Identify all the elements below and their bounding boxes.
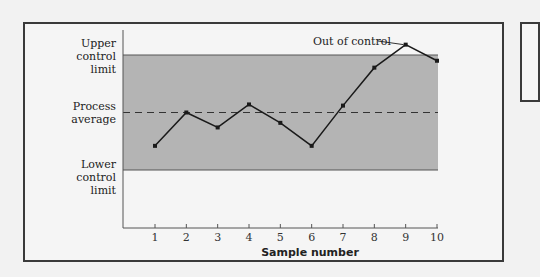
data-point bbox=[435, 59, 439, 63]
data-point bbox=[404, 43, 408, 47]
data-point bbox=[310, 144, 314, 148]
data-point bbox=[341, 104, 345, 108]
data-point bbox=[153, 144, 157, 148]
x-tick-label: 8 bbox=[364, 231, 384, 244]
average-label-line: average bbox=[26, 113, 116, 126]
lcl-label-line: Lower bbox=[26, 158, 116, 171]
data-point bbox=[216, 125, 220, 129]
average-label-line: Process bbox=[26, 100, 116, 113]
ucl-label: Upper control limit bbox=[26, 37, 116, 76]
x-tick-label: 3 bbox=[208, 231, 228, 244]
average-label: Process average bbox=[26, 100, 116, 126]
x-tick-label: 10 bbox=[427, 231, 447, 244]
ucl-label-line: control bbox=[26, 50, 116, 63]
lcl-label-line: control bbox=[26, 171, 116, 184]
lcl-label: Lower control limit bbox=[26, 158, 116, 197]
x-axis-title: Sample number bbox=[240, 246, 380, 259]
out-of-control-annotation: Out of control bbox=[313, 35, 391, 48]
x-tick-label: 4 bbox=[239, 231, 259, 244]
x-tick-label: 1 bbox=[145, 231, 165, 244]
data-point bbox=[372, 66, 376, 70]
data-point bbox=[247, 102, 251, 106]
ucl-label-line: limit bbox=[26, 63, 116, 76]
x-tick-label: 9 bbox=[396, 231, 416, 244]
lcl-label-line: limit bbox=[26, 184, 116, 197]
x-tick-label: 7 bbox=[333, 231, 353, 244]
ucl-label-line: Upper bbox=[26, 37, 116, 50]
x-tick-label: 5 bbox=[270, 231, 290, 244]
data-point bbox=[278, 121, 282, 125]
x-tick-label: 6 bbox=[302, 231, 322, 244]
x-tick-label: 2 bbox=[176, 231, 196, 244]
data-point bbox=[184, 111, 188, 115]
